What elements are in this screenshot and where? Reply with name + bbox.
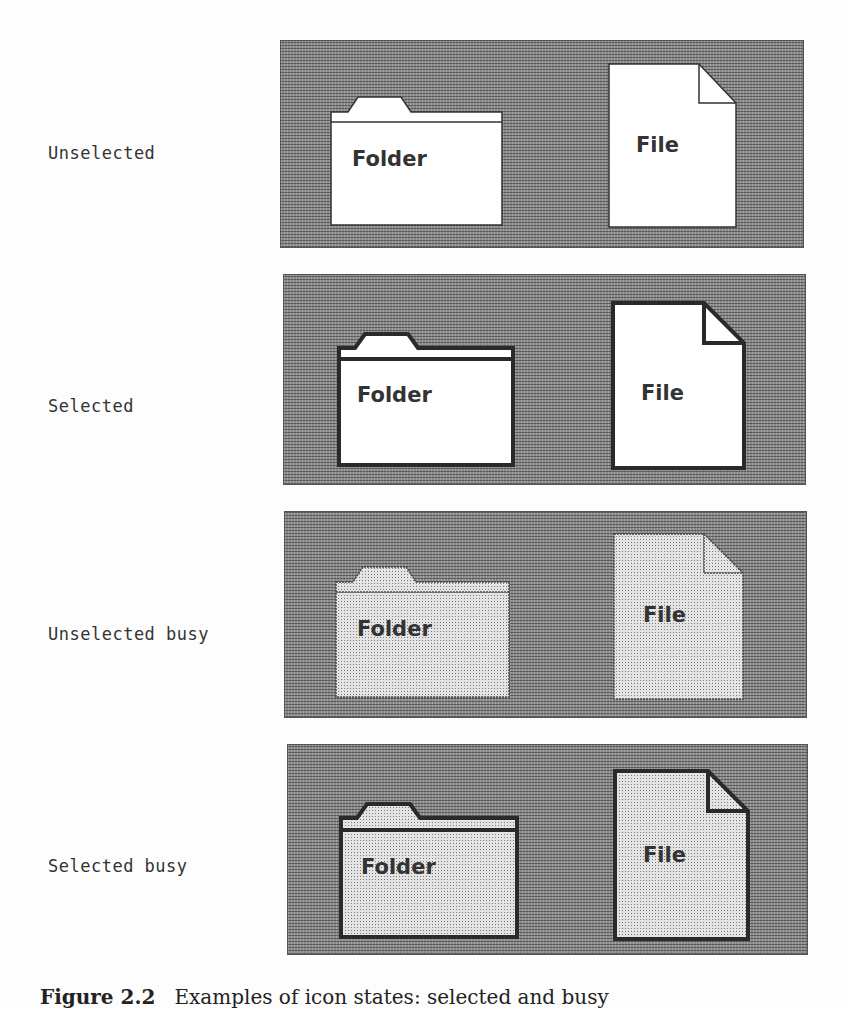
folder-label: Folder [352,147,427,171]
row-label-selected-busy: Selected busy [48,856,188,876]
file-icon[interactable]: File [613,769,751,941]
folder-label: Folder [357,383,432,407]
folder-icon[interactable]: Folder [339,801,519,939]
file-label: File [643,843,686,867]
figure-caption: Figure 2.2 Examples of icon states: sele… [40,985,609,1009]
icon-panel-selected-busy: Folder File [287,744,808,955]
file-label: File [636,133,679,157]
file-icon[interactable]: File [611,301,747,471]
file-label: File [643,603,686,627]
icon-panel-unselected: Folder File [280,40,804,248]
folder-label: Folder [361,855,436,879]
figure-number: Figure 2.2 [40,985,155,1009]
row-label-selected: Selected [48,396,134,416]
icon-panel-unselected-busy: Folder File [284,511,807,718]
file-icon[interactable]: File [608,63,738,229]
row-label-unselected-busy: Unselected busy [48,624,209,644]
folder-icon[interactable]: Folder [330,95,504,227]
row-label-unselected: Unselected [48,143,155,163]
file-label: File [641,381,684,405]
folder-icon[interactable]: Folder [335,565,511,699]
folder-icon[interactable]: Folder [337,331,515,467]
file-icon[interactable]: File [613,533,745,701]
caption-text: Examples of icon states: selected and bu… [174,985,608,1009]
folder-label: Folder [357,617,432,641]
icon-panel-selected: Folder File [283,274,806,485]
